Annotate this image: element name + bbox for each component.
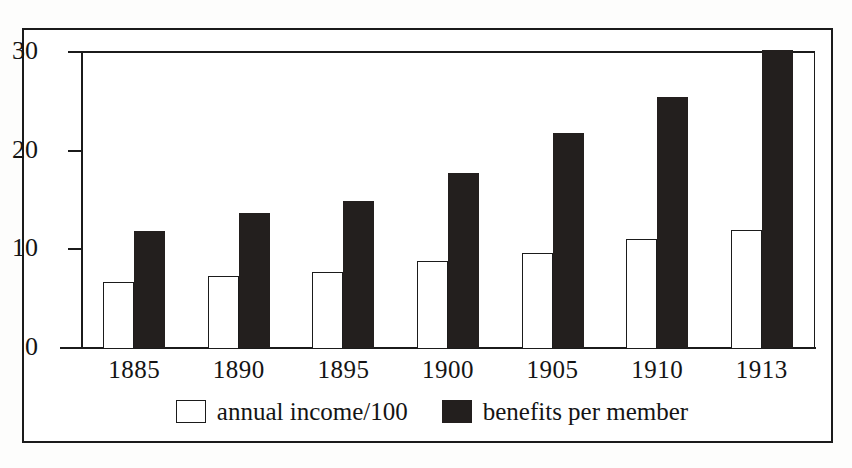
x-tick-label: 1913 — [702, 356, 822, 384]
bar-1910-benefits — [657, 97, 688, 348]
x-tick-label: 1890 — [179, 356, 299, 384]
bar-1890-benefits — [239, 213, 270, 348]
bar-1895-benefits — [343, 201, 374, 348]
legend-entry-benefits: benefits per member — [442, 398, 688, 425]
chart-figure: 3020100 annual income/100benefits per me… — [0, 0, 852, 468]
bar-1890-income — [208, 276, 239, 348]
x-tick-label: 1905 — [493, 356, 613, 384]
x-tick-label: 1910 — [597, 356, 717, 384]
legend-entry-income: annual income/100 — [176, 398, 408, 425]
bar-1900-income — [417, 261, 448, 348]
y-tick-mark — [68, 150, 81, 152]
legend-swatch-dark — [442, 400, 472, 423]
x-tick-label: 1900 — [388, 356, 508, 384]
x-tick-label: 1885 — [74, 356, 194, 384]
bar-1905-income — [522, 253, 553, 348]
legend-swatch-light — [176, 400, 206, 423]
bar-1913-benefits — [762, 50, 793, 348]
bar-1885-benefits — [134, 231, 165, 348]
y-tick-mark — [68, 347, 81, 349]
bar-1913-income — [731, 230, 762, 348]
bar-1910-income — [626, 239, 657, 348]
bar-1905-benefits — [553, 133, 584, 348]
y-tick-mark — [68, 51, 81, 53]
y-tick-mark — [68, 248, 81, 250]
chart-legend: annual income/100benefits per member — [82, 392, 782, 430]
bar-1885-income — [103, 282, 134, 348]
legend-label: benefits per member — [483, 398, 688, 425]
bar-1895-income — [312, 272, 343, 348]
x-tick-label: 1895 — [283, 356, 403, 384]
legend-label: annual income/100 — [217, 398, 408, 425]
bar-1900-benefits — [448, 173, 479, 348]
